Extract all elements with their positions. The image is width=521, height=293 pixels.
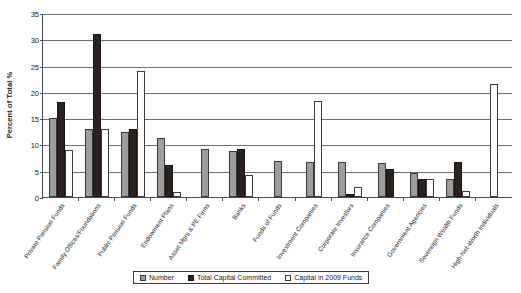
bar-chart: Percent of Total % 05101520253035 Privat… xyxy=(0,0,521,293)
bar-group xyxy=(79,14,115,197)
y-tick-label: 30 xyxy=(31,36,39,45)
y-tick-label: 35 xyxy=(31,10,39,19)
bar-group xyxy=(115,14,151,197)
bar-group xyxy=(296,14,332,197)
bar xyxy=(338,162,346,197)
bar-group xyxy=(151,14,187,197)
bar-groups xyxy=(43,14,512,197)
bar xyxy=(354,187,362,198)
bar xyxy=(237,149,245,197)
y-tick-label: 15 xyxy=(31,115,39,124)
y-tick-label: 5 xyxy=(35,167,39,176)
bar-group xyxy=(404,14,440,197)
bar-group xyxy=(332,14,368,197)
x-axis-label: Private Pension Funds xyxy=(23,202,66,260)
bar xyxy=(378,163,386,197)
bar-group xyxy=(368,14,404,197)
bar-group xyxy=(223,14,259,197)
bar xyxy=(346,194,354,197)
bar xyxy=(85,129,93,197)
bar xyxy=(490,84,498,197)
legend-item: Total Capital Committed xyxy=(188,274,271,281)
x-axis-label: Banks xyxy=(231,202,247,221)
bar xyxy=(201,149,209,197)
legend-swatch-icon xyxy=(188,275,194,281)
bar xyxy=(173,192,181,197)
y-tick-label: 20 xyxy=(31,88,39,97)
bar-group xyxy=(187,14,223,197)
bar-group xyxy=(43,14,79,197)
x-label-slot: Investment Companies xyxy=(295,200,331,262)
y-tick-label: 10 xyxy=(31,141,39,150)
y-tick-label: 25 xyxy=(31,62,39,71)
bar xyxy=(121,132,129,197)
bar-group xyxy=(476,14,512,197)
bar xyxy=(314,101,322,197)
legend-label: Total Capital Committed xyxy=(197,274,271,281)
bar-group xyxy=(259,14,295,197)
bar xyxy=(129,129,137,197)
bar xyxy=(462,191,470,197)
bar xyxy=(446,179,454,197)
bar xyxy=(418,179,426,197)
bar xyxy=(49,118,57,197)
bar-group xyxy=(440,14,476,197)
legend-swatch-icon xyxy=(285,275,291,281)
legend-item: Number xyxy=(140,274,174,281)
chart-legend: NumberTotal Capital CommittedCapital in … xyxy=(133,271,369,284)
legend-swatch-icon xyxy=(140,275,146,281)
plot-area: 05101520253035 xyxy=(42,14,512,198)
bar xyxy=(426,179,434,197)
bar xyxy=(245,175,253,197)
bar xyxy=(165,165,173,197)
x-label-slot: Asset Mgrs & PE Firms xyxy=(187,200,223,262)
x-label-slot: High-Net-Worth Individuals xyxy=(476,200,512,262)
x-label-slot: Public Pension Funds xyxy=(114,200,150,262)
bar xyxy=(306,162,314,197)
bar xyxy=(101,129,109,197)
x-label-slot: Banks xyxy=(223,200,259,262)
bar xyxy=(229,151,237,197)
legend-label: Number xyxy=(149,274,174,281)
bar xyxy=(65,150,73,197)
bar xyxy=(386,169,394,197)
bar xyxy=(454,162,462,197)
y-tick-mark xyxy=(40,198,43,199)
bar xyxy=(57,102,65,197)
bar xyxy=(274,161,282,197)
legend-item: Capital in 2009 Funds xyxy=(285,274,362,281)
x-axis-labels: Private Pension FundsFamily Offices/Foun… xyxy=(42,200,512,262)
bar xyxy=(93,34,101,197)
y-axis-title: Percent of Total % xyxy=(3,5,17,205)
bar xyxy=(137,71,145,197)
y-tick-label: 0 xyxy=(35,194,39,203)
bar xyxy=(157,138,165,197)
legend-label: Capital in 2009 Funds xyxy=(294,274,362,281)
bar xyxy=(410,173,418,197)
